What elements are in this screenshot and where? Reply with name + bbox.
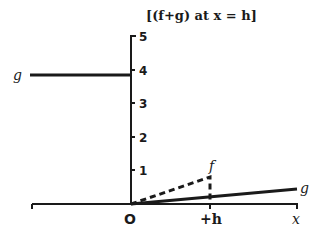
y-tick-3: 3 — [139, 97, 147, 111]
y-tick-2: 2 — [139, 131, 147, 145]
y-tick-1: 1 — [139, 164, 147, 178]
g-left-label: g — [13, 67, 22, 83]
chart-title: [(f+g) at x = h] — [146, 8, 257, 23]
y-tick-5: 5 — [139, 30, 147, 44]
x-label: x — [292, 211, 300, 227]
h-label: +h — [200, 211, 222, 227]
f-label: f — [208, 158, 217, 174]
g-right-label: g — [300, 180, 309, 196]
chart: [(f+g) at x = h] 5 4 3 2 1 O +h x g g f — [0, 0, 324, 233]
origin-label: O — [124, 211, 136, 227]
y-tick-4: 4 — [139, 64, 147, 78]
